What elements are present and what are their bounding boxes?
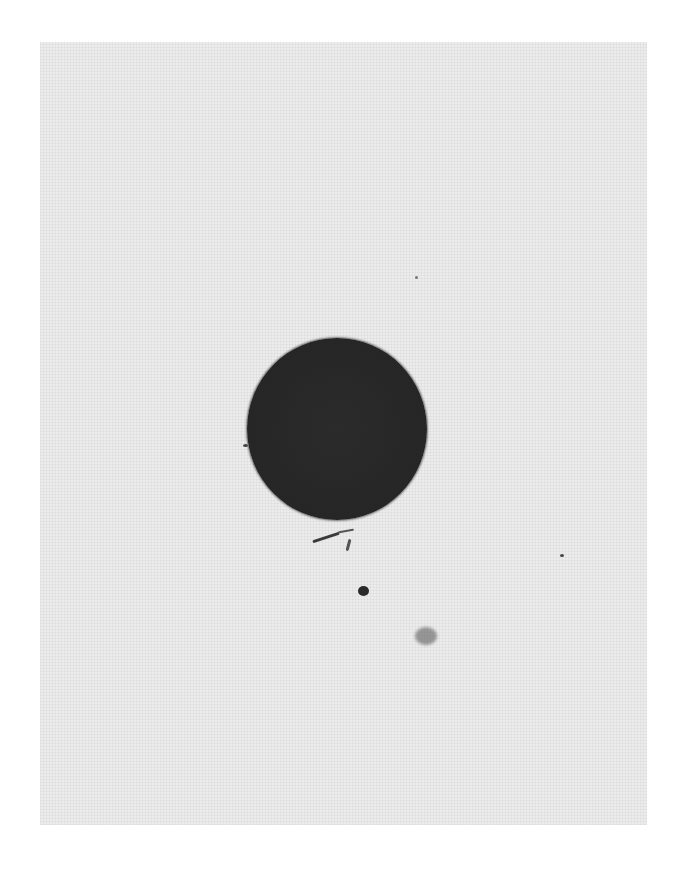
photograph xyxy=(40,42,647,825)
small-dark-dot xyxy=(358,586,369,596)
streak-mark xyxy=(338,529,354,534)
speck xyxy=(243,444,248,447)
speck xyxy=(560,554,564,557)
speck xyxy=(415,276,418,279)
dark-circular-spot xyxy=(247,338,427,520)
faint-smudge xyxy=(415,627,437,645)
streak-mark xyxy=(312,532,340,544)
streak-mark xyxy=(345,539,351,551)
